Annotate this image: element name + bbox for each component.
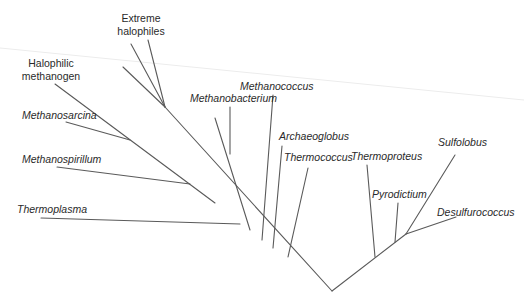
branch-methanosarcina — [66, 122, 130, 140]
label-thermococcus: Thermococcus — [284, 151, 353, 164]
label-methanospirillum: Methanospirillum — [22, 153, 101, 166]
tree-branches — [41, 40, 456, 291]
label-halophilic-methanogen: Halophilic methanogen — [18, 57, 84, 83]
label-extreme-halophiles-line1: Extreme — [108, 12, 174, 25]
label-thermoproteus: Thermoproteus — [351, 150, 422, 163]
branch-pyrodictium — [395, 203, 398, 242]
branch-thermoproteus — [367, 165, 375, 257]
branch-archaeoglobus — [273, 146, 282, 248]
branch-desulfurococcus — [406, 217, 456, 234]
branch-thermoplasma — [41, 218, 240, 224]
branch-extreme-halophile-b — [148, 40, 165, 107]
label-archaeoglobus: Archaeoglobus — [279, 130, 349, 143]
label-methanobacterium: Methanobacterium — [190, 92, 277, 105]
branch-extreme-halophile-c — [123, 67, 165, 107]
label-extreme-halophiles-line2: halophiles — [108, 25, 174, 38]
label-methanococcus: Methanococcus — [240, 80, 314, 93]
branch-methanobacterium-clade — [215, 118, 250, 230]
branch-trunk-right — [332, 234, 406, 291]
label-methanosarcina: Methanosarcina — [22, 109, 97, 122]
label-sulfolobus: Sulfolobus — [438, 136, 487, 149]
label-halophilic-methanogen-line2: methanogen — [18, 70, 84, 83]
label-halophilic-methanogen-line1: Halophilic — [18, 57, 84, 70]
branch-thermococcus — [288, 168, 308, 257]
label-extreme-halophiles: Extreme halophiles — [108, 12, 174, 38]
branch-methanococcus — [262, 95, 273, 240]
label-desulfurococcus: Desulfurococcus — [437, 206, 515, 219]
label-pyrodictium: Pyrodictium — [372, 188, 427, 201]
branch-extreme-halophile-a — [131, 44, 165, 107]
label-thermoplasma: Thermoplasma — [17, 203, 87, 216]
